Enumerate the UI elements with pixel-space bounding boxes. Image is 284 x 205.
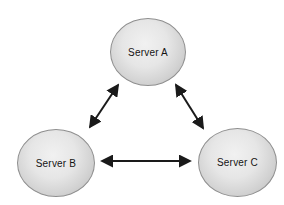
node-server-c: Server C [198,128,277,197]
double-arrow-a-c [176,85,203,128]
node-server-a: Server A [110,18,186,86]
double-arrow-a-b [90,85,118,127]
node-label-server-c: Server C [217,157,258,168]
diagram-canvas: Server A Server B Server C [0,0,284,205]
node-label-server-a: Server A [128,47,168,58]
node-label-server-b: Server B [36,158,77,169]
node-server-b: Server B [17,129,95,197]
